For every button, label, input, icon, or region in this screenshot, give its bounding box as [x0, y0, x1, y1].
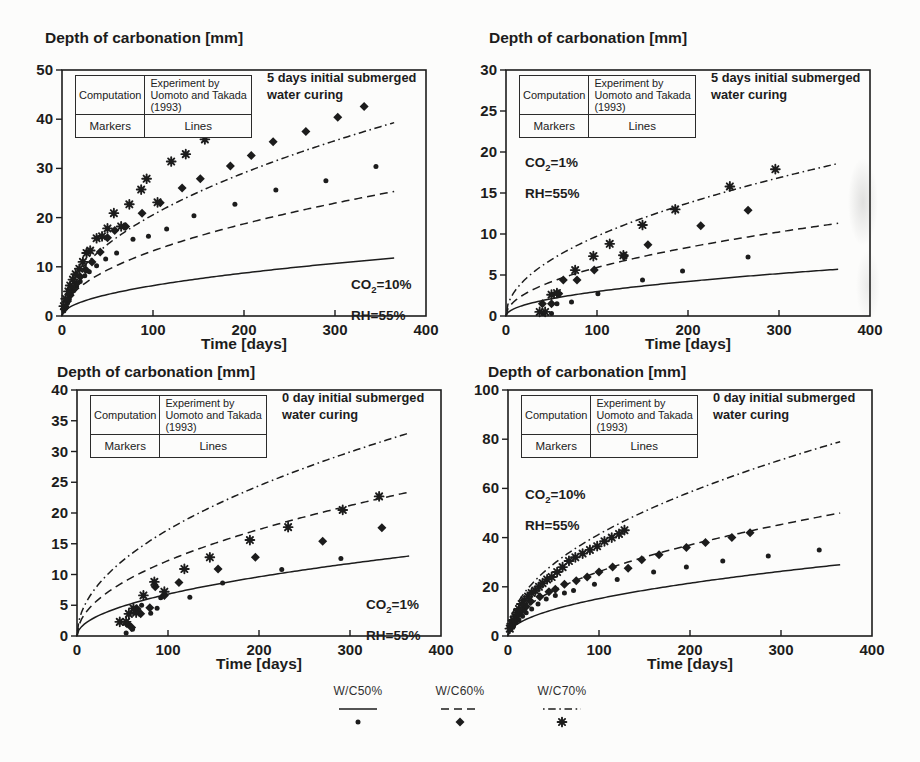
svg-text:5: 5 [60, 596, 68, 613]
svg-text:400: 400 [428, 641, 453, 658]
svg-text:20: 20 [51, 504, 68, 521]
inset-cell-lines: Lines [591, 435, 698, 458]
co2-label: CO2=1% [525, 150, 579, 181]
svg-text:20: 20 [36, 209, 53, 226]
chart-title: Depth of carbonation [mm] [45, 29, 243, 47]
condition-labels: CO2=10% RH=55% [525, 482, 585, 539]
scanned-figure-page: Depth of carbonation [mm] 01002003004000… [0, 0, 920, 762]
svg-text:0: 0 [504, 641, 512, 658]
svg-text:100: 100 [474, 381, 499, 398]
inset-cell-markers: Markers [522, 435, 591, 458]
svg-text:80: 80 [482, 430, 499, 447]
svg-text:0: 0 [58, 321, 66, 338]
svg-text:400: 400 [413, 321, 438, 338]
inset-cell-experiment: Experiment by Uomoto and Takada (1993) [145, 76, 252, 115]
legend-label: W/C50% [318, 684, 398, 698]
svg-text:10: 10 [51, 566, 68, 583]
svg-text:100: 100 [584, 321, 609, 338]
svg-text:10: 10 [480, 225, 497, 242]
svg-text:300: 300 [337, 641, 362, 658]
inset-legend-table: Computation Experiment by Uomoto and Tak… [521, 395, 698, 458]
legend-marker-dot [348, 715, 368, 731]
svg-text:0: 0 [489, 307, 497, 324]
svg-text:40: 40 [482, 529, 499, 546]
svg-text:30: 30 [480, 61, 497, 78]
inset-legend-table: Computation Experiment by Uomoto and Tak… [90, 395, 267, 458]
co2-label: CO2=10% [351, 272, 411, 303]
svg-text:400: 400 [857, 321, 882, 338]
figure-legend: W/C50% W/C60% W/C70% [0, 680, 920, 756]
chart-co2-10pct-0day-curing: Depth of carbonation [mm] 01002003004000… [474, 344, 916, 666]
svg-text:100: 100 [155, 641, 180, 658]
svg-text:400: 400 [859, 641, 884, 658]
legend-marker-diamond [450, 715, 470, 731]
legend-line-dashed [439, 705, 481, 713]
svg-text:5: 5 [489, 266, 497, 283]
chart-co2-10pct-5day-curing: Depth of carbonation [mm] 01002003004000… [28, 24, 470, 346]
inset-cell-lines: Lines [589, 115, 696, 138]
legend-item-wc50: W/C50% [318, 684, 398, 731]
svg-text:100: 100 [140, 321, 165, 338]
svg-text:0: 0 [60, 627, 68, 644]
inset-cell-computation: Computation [522, 396, 591, 435]
svg-text:15: 15 [51, 535, 68, 552]
svg-text:35: 35 [51, 412, 68, 429]
inset-legend-table: Computation Experiment by Uomoto and Tak… [519, 75, 696, 138]
svg-text:10: 10 [36, 258, 53, 275]
legend-item-wc60: W/C60% [420, 684, 500, 731]
inset-cell-markers: Markers [520, 115, 589, 138]
inset-cell-lines: Lines [160, 435, 267, 458]
co2-label: CO2=10% [525, 482, 585, 513]
svg-text:30: 30 [36, 159, 53, 176]
curing-note: 0 day initial submerged water curing [713, 390, 885, 423]
curing-note: 5 days initial submerged water curing [711, 70, 883, 103]
svg-text:25: 25 [51, 473, 68, 490]
inset-cell-experiment: Experiment by Uomoto and Takada (1993) [591, 396, 698, 435]
rh-label: RH=55% [525, 181, 579, 207]
rh-label: RH=55% [366, 623, 420, 649]
svg-text:300: 300 [768, 641, 793, 658]
inset-cell-computation: Computation [91, 396, 160, 435]
legend-label: W/C70% [522, 684, 602, 698]
inset-cell-markers: Markers [91, 435, 160, 458]
chart-co2-1pct-0day-curing: Depth of carbonation [mm] 01002003004000… [43, 344, 485, 666]
svg-text:0: 0 [491, 627, 499, 644]
chart-title: Depth of carbonation [mm] [57, 363, 255, 381]
x-axis-label: Time [days] [189, 655, 329, 673]
svg-text:15: 15 [480, 184, 497, 201]
rh-label: RH=55% [351, 303, 411, 329]
svg-text:60: 60 [482, 479, 499, 496]
chart-co2-1pct-5day-curing: Depth of carbonation [mm] 01002003004000… [472, 24, 914, 346]
inset-cell-experiment: Experiment by Uomoto and Takada (1993) [160, 396, 267, 435]
x-axis-label: Time [days] [620, 655, 760, 673]
svg-text:100: 100 [586, 641, 611, 658]
chart-title: Depth of carbonation [mm] [488, 363, 686, 381]
inset-legend-table: Computation Experiment by Uomoto and Tak… [75, 75, 252, 138]
inset-cell-lines: Lines [145, 115, 252, 138]
curing-note: 5 days initial submerged water curing [267, 70, 439, 103]
legend-marker-star [552, 715, 572, 731]
legend-line-solid [337, 705, 379, 713]
chart-title: Depth of carbonation [mm] [489, 29, 687, 47]
svg-text:0: 0 [502, 321, 510, 338]
inset-cell-computation: Computation [76, 76, 145, 115]
svg-text:300: 300 [766, 321, 791, 338]
svg-text:25: 25 [480, 102, 497, 119]
co2-label: CO2=1% [366, 592, 420, 623]
svg-text:20: 20 [482, 578, 499, 595]
legend-item-wc70: W/C70% [522, 684, 602, 731]
svg-text:40: 40 [51, 381, 68, 398]
legend-line-dashdot [541, 705, 583, 713]
legend-label: W/C60% [420, 684, 500, 698]
svg-text:300: 300 [322, 321, 347, 338]
condition-labels: CO2=10% RH=55% [351, 272, 411, 329]
condition-labels: CO2=1% RH=55% [366, 592, 420, 649]
svg-text:50: 50 [36, 61, 53, 78]
svg-text:40: 40 [36, 110, 53, 127]
svg-text:20: 20 [480, 143, 497, 160]
curing-note: 0 day initial submerged water curing [282, 390, 454, 423]
inset-cell-computation: Computation [520, 76, 589, 115]
svg-text:0: 0 [73, 641, 81, 658]
inset-cell-experiment: Experiment by Uomoto and Takada (1993) [589, 76, 696, 115]
rh-label: RH=55% [525, 513, 585, 539]
